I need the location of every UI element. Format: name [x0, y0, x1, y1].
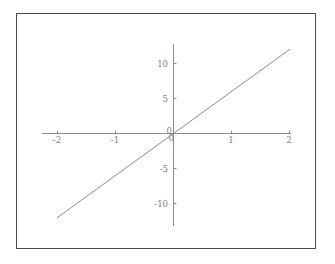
x-tick-label--2: -2: [53, 136, 61, 145]
y-tick-label-10: 10: [157, 60, 168, 69]
x-tick-label-2: 2: [286, 136, 291, 145]
y-tick-label--5: -5: [160, 165, 168, 174]
y-tick-label--10: -10: [154, 200, 168, 209]
x-tick-label-1: 1: [228, 136, 233, 145]
y-tick-label-5: 5: [163, 95, 168, 104]
x-tick-label--1: -1: [111, 136, 119, 145]
plot-figure: -2 -1 0 1 2 10 5 0 -5 -10: [0, 0, 335, 264]
y-tick-label-0: 0: [167, 127, 172, 136]
